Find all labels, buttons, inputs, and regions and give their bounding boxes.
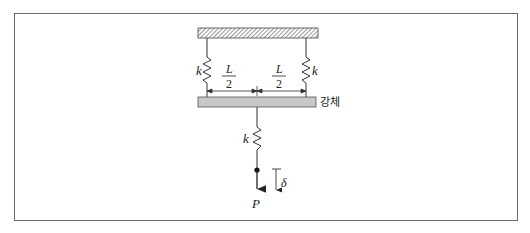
left-spring-k-label: k bbox=[196, 63, 202, 78]
right-half-length-denominator: 2 bbox=[276, 77, 282, 91]
deflection-label: δ bbox=[281, 176, 287, 190]
ceiling-support bbox=[198, 28, 318, 38]
left-spring bbox=[203, 38, 211, 97]
rigid-body-label: 강체 bbox=[320, 96, 340, 109]
spring-system-diagram: k k L 2 L 2 강체 k P δ bbox=[0, 0, 530, 233]
bottom-spring bbox=[253, 107, 261, 170]
right-half-length-numerator: L bbox=[275, 62, 283, 76]
dimension-line bbox=[207, 86, 306, 96]
left-half-length-denominator: 2 bbox=[226, 77, 232, 91]
right-spring-k-label: k bbox=[312, 63, 318, 78]
right-spring bbox=[302, 38, 310, 97]
rigid-bar bbox=[198, 97, 316, 107]
deflection-marker bbox=[272, 169, 281, 190]
load-label: P bbox=[251, 196, 260, 211]
left-half-length-numerator: L bbox=[225, 62, 233, 76]
bottom-spring-k-label: k bbox=[243, 131, 249, 146]
